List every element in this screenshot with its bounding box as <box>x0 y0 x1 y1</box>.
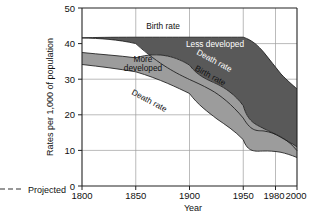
y-axis-title: Rates per 1,000 of population <box>45 38 55 156</box>
annotation-less-developed: Less developed <box>186 39 245 49</box>
ytick-label-20: 20 <box>64 109 75 120</box>
xtick-label-1900: 1900 <box>179 190 200 201</box>
ytick-label-40: 40 <box>64 38 75 49</box>
legend-label-projected: Projected <box>28 185 66 195</box>
xtick-label-1850: 1850 <box>125 190 146 201</box>
xtick-label-1950: 1950 <box>233 190 254 201</box>
xtick-label-2000: 2000 <box>285 190 306 201</box>
xtick-label-1980: 1980 <box>263 190 284 201</box>
annotation-more-developed-line2: developed <box>124 63 163 73</box>
population-rates-area-chart: 50 40 30 20 10 0 1800 1850 1900 1950 198… <box>0 0 310 223</box>
x-axis-title: Year <box>184 203 202 213</box>
annotation-birth-rate-top: Birth rate <box>146 21 180 31</box>
xtick-label-1800: 1800 <box>71 190 92 201</box>
figure-container: 50 40 30 20 10 0 1800 1850 1900 1950 198… <box>0 0 310 223</box>
ytick-label-10: 10 <box>64 145 75 156</box>
ytick-label-30: 30 <box>64 74 75 85</box>
ytick-label-50: 50 <box>64 3 75 14</box>
